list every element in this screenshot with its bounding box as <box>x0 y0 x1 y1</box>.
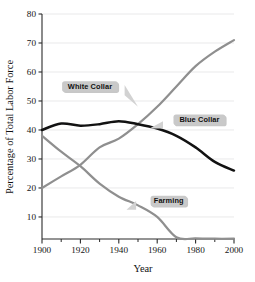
chart-svg: 1020304050607080 19001920194019601980200… <box>0 0 255 282</box>
y-axis-title: Percentage of Total Labor Force <box>4 60 15 194</box>
x-tick-label: 1920 <box>71 245 90 255</box>
x-tick-label: 2000 <box>225 245 244 255</box>
callout-label: Farming <box>154 196 184 205</box>
x-tick-label: 1960 <box>148 245 167 255</box>
labor-force-chart: 1020304050607080 19001920194019601980200… <box>0 0 255 282</box>
callout-label: White Collar <box>68 82 112 91</box>
y-tick-label: 60 <box>27 67 37 77</box>
x-tick-label: 1900 <box>33 245 52 255</box>
y-axis-tick-labels: 1020304050607080 <box>27 9 37 222</box>
x-tick-label: 1980 <box>186 245 205 255</box>
x-axis-title: Year <box>133 263 153 274</box>
y-tick-label: 70 <box>27 38 37 48</box>
x-axis-tick-labels: 190019201940196019802000 <box>33 245 244 255</box>
series-group <box>42 40 234 239</box>
series-white-collar <box>42 40 234 188</box>
callout-tail <box>125 85 138 107</box>
y-tick-label: 80 <box>27 9 37 19</box>
series-blue-collar <box>42 121 234 170</box>
y-tick-label: 30 <box>27 154 37 164</box>
y-tick-label: 40 <box>27 125 37 135</box>
y-tick-label: 10 <box>27 212 37 222</box>
series-farming <box>42 136 234 239</box>
x-tick-label: 1940 <box>110 245 129 255</box>
callout-label: Blue Collar <box>179 115 219 124</box>
y-tick-label: 20 <box>27 183 37 193</box>
y-tick-label: 50 <box>27 96 37 106</box>
